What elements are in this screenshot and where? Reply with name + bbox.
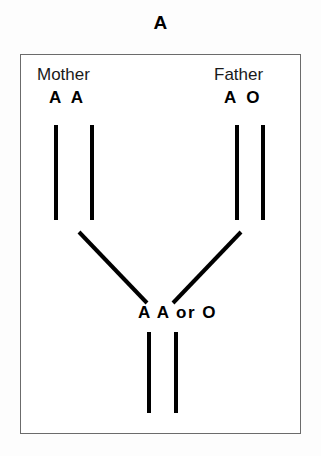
blood-type-inheritance-diagram: A Mother A A Father A O A A or O xyxy=(0,0,321,456)
father-label: Father xyxy=(214,65,263,85)
page-title: A xyxy=(0,12,321,34)
mother-label: Mother xyxy=(37,65,90,85)
inheritance-lines xyxy=(21,55,302,435)
pedigree-box: Mother A A Father A O A A or O xyxy=(20,54,301,434)
mother-genotype: A A xyxy=(49,88,86,108)
father-genotype: A O xyxy=(224,88,263,108)
father-diagonal-line xyxy=(173,232,241,303)
offspring-genotype: A A or O xyxy=(138,303,217,323)
mother-diagonal-line xyxy=(79,232,147,303)
